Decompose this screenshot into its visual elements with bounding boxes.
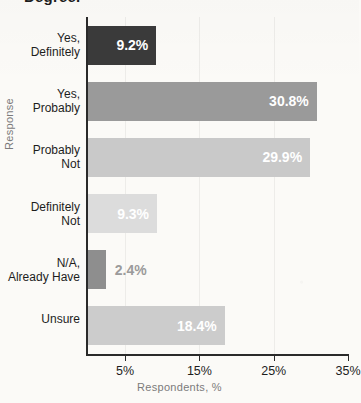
bar-value-label: 30.8% xyxy=(269,93,309,109)
bar[interactable]: 30.8% xyxy=(88,82,317,121)
x-tick-label: 35% xyxy=(335,364,360,378)
bar-value-label: 18.4% xyxy=(177,318,217,334)
tick-mark xyxy=(274,354,275,361)
tick-mark xyxy=(348,354,349,361)
bar[interactable]: 29.9% xyxy=(88,138,310,177)
bar[interactable]: 9.3% xyxy=(88,194,157,233)
chart-title-clipped: Degree. xyxy=(24,0,144,9)
bar-row[interactable]: 2.4% xyxy=(88,250,348,289)
x-axis-title: Respondents, % xyxy=(0,381,359,393)
category-label: N/A, Already Have xyxy=(0,256,80,284)
category-label: Unsure xyxy=(0,312,80,326)
x-tick-label: 25% xyxy=(261,364,286,378)
category-label: Yes, Definitely xyxy=(0,31,80,59)
bar[interactable] xyxy=(88,250,106,289)
category-label: Definitely Not xyxy=(0,200,80,228)
gridline xyxy=(199,17,200,354)
plot-area: 5%15%25%35% 9.2%30.8%29.9%9.3%2.4%18.4% xyxy=(88,17,348,354)
chart-title-text: Degree. xyxy=(24,0,80,5)
bar-value-label: 9.3% xyxy=(117,206,149,222)
bar-value-label: 29.9% xyxy=(262,149,302,165)
bar-row[interactable]: 30.8% xyxy=(88,82,348,121)
x-tick-label: 5% xyxy=(116,364,134,378)
bar-row[interactable]: 9.2% xyxy=(88,26,348,65)
gridline xyxy=(125,17,126,354)
x-tick-label: 15% xyxy=(187,364,212,378)
bar-value-label: 2.4% xyxy=(115,262,147,278)
bar-row[interactable]: 29.9% xyxy=(88,138,348,177)
bar-row[interactable]: 9.3% xyxy=(88,194,348,233)
tick-mark xyxy=(199,354,200,361)
y-axis-line xyxy=(86,17,88,354)
bar-value-label: 9.2% xyxy=(116,37,148,53)
bar[interactable]: 9.2% xyxy=(88,26,156,65)
bar-row[interactable]: 18.4% xyxy=(88,306,348,345)
category-label: Probably Not xyxy=(0,143,80,171)
tick-mark xyxy=(125,354,126,361)
bar[interactable]: 18.4% xyxy=(88,306,225,345)
gridline xyxy=(274,17,275,354)
category-label: Yes, Probably xyxy=(0,87,80,115)
